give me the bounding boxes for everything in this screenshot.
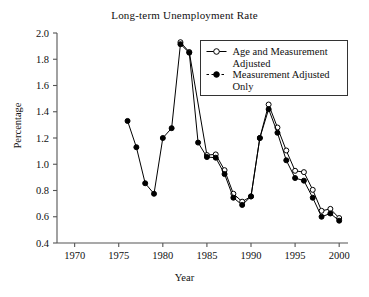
y-tick-label: 1.4	[36, 106, 50, 117]
data-point-filled	[125, 118, 130, 123]
legend-marker-filled	[214, 72, 220, 78]
chart-plot-area: 0.40.60.81.01.21.41.61.82.0 197019751980…	[0, 0, 369, 297]
data-point-filled	[187, 50, 192, 55]
y-axis-ticks: 0.40.60.81.01.21.41.61.82.0	[36, 28, 57, 249]
data-point-filled	[213, 155, 218, 160]
legend-label: Age and Measurement	[233, 46, 328, 57]
legend-label-continued: Adjusted	[233, 58, 272, 69]
x-axis-label: Year	[0, 272, 369, 283]
data-point-filled	[275, 130, 280, 135]
data-point-filled	[266, 107, 271, 112]
chart-figure: Long-term Unemployment Rate 0.40.60.81.0…	[0, 0, 369, 297]
data-point-filled	[301, 178, 306, 183]
data-point-filled	[169, 126, 174, 131]
data-point-open	[310, 187, 315, 192]
y-tick-label: 1.8	[36, 54, 49, 65]
data-point-filled	[204, 155, 209, 160]
y-tick-label: 1.6	[36, 80, 49, 91]
data-point-filled	[240, 202, 245, 207]
y-axis-label: Percentage	[12, 81, 23, 171]
data-point-filled	[284, 158, 289, 163]
x-tick-label: 1980	[152, 250, 173, 261]
y-tick-label: 2.0	[36, 28, 49, 39]
x-tick-label: 1970	[64, 250, 85, 261]
data-point-open	[301, 170, 306, 175]
data-point-open	[293, 168, 298, 173]
data-point-filled	[143, 181, 148, 186]
data-point-filled	[319, 214, 324, 219]
data-point-filled	[328, 211, 333, 216]
data-point-filled	[178, 42, 183, 47]
legend-label: Measurement Adjusted	[233, 69, 331, 80]
x-axis-ticks: 1970197519801985199019952000	[64, 243, 350, 261]
data-point-filled	[222, 172, 227, 177]
data-point-filled	[160, 136, 165, 141]
data-point-filled	[293, 176, 298, 181]
x-tick-label: 1995	[285, 250, 306, 261]
data-point-open	[284, 148, 289, 153]
y-tick-label: 0.8	[36, 185, 49, 196]
data-point-filled	[152, 191, 157, 196]
y-tick-label: 0.6	[36, 211, 49, 222]
y-tick-label: 0.4	[36, 238, 50, 249]
data-point-filled	[196, 140, 201, 145]
x-tick-label: 1985	[196, 250, 217, 261]
data-point-filled	[134, 145, 139, 150]
chart-legend: Age and MeasurementAdjustedMeasurement A…	[201, 41, 348, 96]
legend-marker-open	[214, 49, 220, 55]
data-point-filled	[310, 195, 315, 200]
x-tick-label: 2000	[329, 250, 350, 261]
data-point-filled	[337, 218, 342, 223]
y-tick-label: 1.0	[36, 159, 49, 170]
x-tick-label: 1975	[108, 250, 129, 261]
y-tick-label: 1.2	[36, 133, 49, 144]
data-point-filled	[249, 194, 254, 199]
legend-label-continued: Only	[233, 81, 255, 92]
x-tick-label: 1990	[241, 250, 262, 261]
data-point-filled	[257, 136, 262, 141]
data-point-filled	[231, 195, 236, 200]
